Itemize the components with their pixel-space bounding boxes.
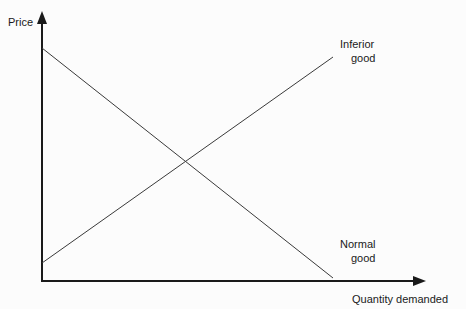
chart-canvas: Price Quantity demanded Inferior good No… (0, 0, 466, 309)
y-axis-arrow-icon (37, 11, 47, 24)
x-axis-arrow-icon (413, 276, 426, 286)
normal-good-label-line2: good (351, 252, 375, 264)
inferior-good-label-line2: good (351, 52, 375, 64)
y-axis-label: Price (8, 16, 33, 28)
normal-good-line (42, 48, 333, 278)
inferior-good-label-line1: Inferior (340, 38, 375, 50)
economics-demand-chart: Price Quantity demanded Inferior good No… (0, 0, 466, 309)
normal-good-label-line1: Normal (340, 238, 375, 250)
inferior-good-line (42, 57, 333, 263)
x-axis-label: Quantity demanded (352, 293, 448, 305)
